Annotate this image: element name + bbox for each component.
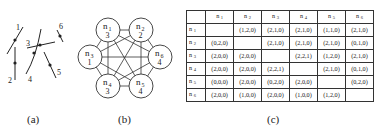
caption-a: (a) bbox=[27, 113, 39, 125]
column-header-n2: n 2 bbox=[234, 11, 262, 24]
table-cell: (2,0,0) bbox=[290, 76, 318, 89]
node-value: 3 bbox=[106, 87, 110, 96]
table-row: n 6(2,0,0)(1,0,0)(2,0,0)(1,0,0)(1,2,0) bbox=[187, 89, 374, 102]
table-cell: (2,0,0) bbox=[206, 63, 234, 76]
column-header-n4: n 4 bbox=[290, 11, 318, 24]
table-cell: (1,2,0) bbox=[317, 89, 345, 102]
row-header-n4: n 4 bbox=[187, 63, 206, 76]
table-cell: (2,0,0) bbox=[234, 76, 262, 89]
node-value: 4 bbox=[158, 58, 162, 67]
graph-node-n1: n13 bbox=[96, 18, 120, 42]
table-cell: (2,1,0) bbox=[345, 24, 373, 37]
table-cell: (2,2,1) bbox=[262, 63, 290, 76]
row-header-n3: n 3 bbox=[187, 50, 206, 63]
table-cell: (1,2,0) bbox=[234, 24, 262, 37]
table-cell: (1,0,0) bbox=[234, 89, 262, 102]
row-header-n5: n 5 bbox=[187, 76, 206, 89]
table-cell bbox=[290, 63, 318, 76]
table-row: n 1(1,2,0)(2,1,0)(2,1,0)(1,1,0)(2,1,0) bbox=[187, 24, 374, 37]
table-row: n 5(0,0,0)(2,0,0)(0,2,0)(2,0,0)(0,2,0) bbox=[187, 76, 374, 89]
table-row: n 2(0,2,0)(2,1,0)(2,1,0)(2,1,0)(0,1,0) bbox=[187, 37, 374, 50]
table-body: n 1(1,2,0)(2,1,0)(2,1,0)(1,1,0)(2,1,0)n … bbox=[187, 24, 374, 102]
relation-matrix-table: n 1n 2n 3n 4n 5n 6 n 1(1,2,0)(2,1,0)(2,1… bbox=[186, 10, 374, 102]
table-row: n 3(2,0,0)(2,0,0)(2,2,1)(1,2,0)(2,1,0) bbox=[187, 50, 374, 63]
caption-b: (b) bbox=[118, 113, 131, 125]
table-cell: (2,0,0) bbox=[234, 63, 262, 76]
table-cell bbox=[345, 89, 373, 102]
node-value: 4 bbox=[139, 87, 143, 96]
table-corner-cell bbox=[187, 11, 206, 24]
node-value: 2 bbox=[139, 31, 143, 40]
graph-node-n2: n22 bbox=[129, 18, 153, 42]
column-header-n3: n 3 bbox=[262, 11, 290, 24]
table-cell: (0,0,0) bbox=[206, 76, 234, 89]
table-cell: (1,2,0) bbox=[317, 50, 345, 63]
node-value: 1 bbox=[88, 58, 92, 67]
column-header-n6: n 6 bbox=[345, 11, 373, 24]
graph-node-n4: n43 bbox=[96, 74, 120, 98]
table-cell bbox=[262, 50, 290, 63]
table-cell: (2,1,0) bbox=[317, 37, 345, 50]
table-cell bbox=[206, 24, 234, 37]
table-cell: (0,2,0) bbox=[262, 76, 290, 89]
table-cell: (1,0,0) bbox=[290, 89, 318, 102]
table-cell: (0,1,0) bbox=[345, 63, 373, 76]
table-cell: (2,1,0) bbox=[290, 24, 318, 37]
table-header-row: n 1n 2n 3n 4n 5n 6 bbox=[187, 11, 374, 24]
table-cell: (1,1,0) bbox=[317, 24, 345, 37]
table-cell: (0,2,0) bbox=[206, 37, 234, 50]
table-cell bbox=[234, 37, 262, 50]
row-header-n1: n 1 bbox=[187, 24, 206, 37]
graph-node-n3: n31 bbox=[78, 45, 102, 69]
table-cell: (0,1,0) bbox=[345, 37, 373, 50]
column-header-n1: n 1 bbox=[206, 11, 234, 24]
graph-node-n6: n64 bbox=[148, 45, 172, 69]
table-cell: (2,0,0) bbox=[206, 89, 234, 102]
graph-node-n5: n54 bbox=[129, 74, 153, 98]
table-cell bbox=[317, 76, 345, 89]
table-cell: (2,1,0) bbox=[345, 50, 373, 63]
row-header-n2: n 2 bbox=[187, 37, 206, 50]
caption-c: (c) bbox=[267, 113, 279, 125]
table-row: n 4(2,0,0)(2,0,0)(2,2,1)(2,1,0)(0,1,0) bbox=[187, 63, 374, 76]
table-cell: (2,1,0) bbox=[290, 37, 318, 50]
table-cell: (0,2,0) bbox=[345, 76, 373, 89]
table-cell: (2,1,0) bbox=[262, 37, 290, 50]
table-cell: (2,0,0) bbox=[206, 50, 234, 63]
table-cell: (2,0,0) bbox=[234, 50, 262, 63]
table-cell: (2,1,0) bbox=[262, 24, 290, 37]
row-header-n6: n 6 bbox=[187, 89, 206, 102]
table-cell: (2,0,0) bbox=[262, 89, 290, 102]
node-value: 3 bbox=[106, 31, 110, 40]
column-header-n5: n 5 bbox=[317, 11, 345, 24]
table-cell: (2,2,1) bbox=[290, 50, 318, 63]
table-cell: (2,1,0) bbox=[317, 63, 345, 76]
